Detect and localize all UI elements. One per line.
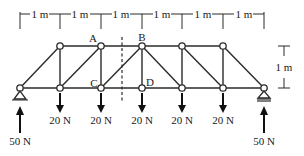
- reaction-label-left: 50 N: [9, 135, 31, 147]
- reaction-arrow-icon: [260, 106, 268, 133]
- node-label-b: B: [138, 31, 145, 43]
- span-label-4: 1 m: [154, 8, 171, 20]
- height-label: 1 m: [276, 61, 293, 73]
- node-label-c: C: [90, 77, 97, 89]
- node-label-a: A: [89, 32, 97, 44]
- load-arrow-icon: [138, 93, 146, 113]
- load-arrow-icon: [219, 93, 227, 113]
- load-label-3: 20 N: [131, 114, 153, 126]
- span-label-1: 1 m: [32, 8, 49, 20]
- load-arrow-icon: [178, 93, 186, 113]
- load-label-4: 20 N: [171, 114, 193, 126]
- load-arrow-icon: [97, 93, 105, 113]
- reaction-label-right: 50 N: [253, 135, 275, 147]
- span-label-3: 1 m: [113, 8, 130, 20]
- load-label-5: 20 N: [212, 114, 234, 126]
- truss-diagram: 1 m 1 m 1 m 1 m 1 m 1 m 1 m: [0, 0, 304, 156]
- span-dimension-line: [20, 12, 264, 29]
- span-label-6: 1 m: [236, 8, 253, 20]
- pin-support-icon: [12, 91, 28, 100]
- load-label-1: 20 N: [49, 114, 71, 126]
- reaction-arrow-icon: [16, 106, 24, 133]
- load-label-2: 20 N: [90, 114, 112, 126]
- span-label-2: 1 m: [72, 8, 89, 20]
- span-label-5: 1 m: [195, 8, 212, 20]
- load-arrow-icon: [56, 93, 64, 113]
- node-label-d: D: [146, 76, 154, 88]
- roller-support-icon: [257, 91, 271, 101]
- truss-members: [20, 46, 264, 88]
